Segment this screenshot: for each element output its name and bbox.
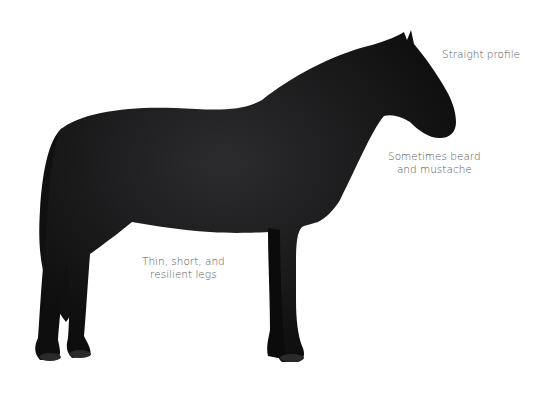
annotation-legs: Thin, short, and resilient legs [142, 255, 225, 281]
annotation-line: resilient legs [142, 268, 225, 281]
annotation-line: and mustache [388, 163, 481, 176]
annotation-line: Straight profile [442, 48, 520, 61]
annotation-line: Sometimes beard [388, 150, 481, 163]
hoof [69, 350, 91, 358]
hoof [39, 353, 61, 361]
horse-body [35, 30, 456, 362]
horse-illustration: Straight profile Sometimes beard and mus… [0, 0, 546, 394]
annotation-beard-mustache: Sometimes beard and mustache [388, 150, 481, 176]
annotation-line: Thin, short, and [142, 255, 225, 268]
annotation-straight-profile: Straight profile [442, 48, 520, 61]
hoof [280, 354, 304, 362]
